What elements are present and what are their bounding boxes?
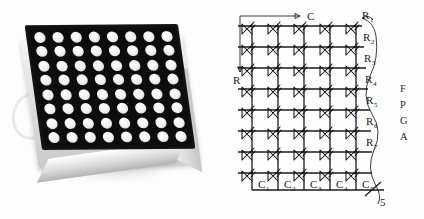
led-dot: [90, 46, 103, 57]
led-dot: [57, 75, 70, 86]
led-dot: [118, 117, 131, 128]
led-dot: [98, 103, 111, 114]
row-label-base: R: [366, 94, 374, 106]
led-symbol: [320, 22, 333, 34]
led-dot: [112, 74, 125, 85]
led-symbol: [294, 148, 307, 160]
led-symbol-grid: [242, 22, 359, 181]
led-symbol: [242, 148, 255, 160]
led-dot: [37, 61, 50, 72]
led-matrix-photo: [0, 0, 212, 219]
led-symbol: [346, 148, 359, 160]
led-dot: [73, 60, 86, 71]
led-dot: [77, 89, 90, 100]
led-dot: [100, 117, 113, 128]
led-dot: [128, 60, 141, 71]
row-label-sub: 7: [374, 143, 378, 151]
led-dot: [88, 31, 101, 42]
led-symbol: [242, 169, 255, 181]
led-symbol: [268, 169, 281, 181]
led-symbol: [268, 64, 281, 76]
led-symbol: [346, 64, 359, 76]
col-label-base: C: [362, 178, 369, 190]
col-label-sub: 5: [370, 185, 374, 193]
col-label-base: C: [284, 178, 291, 190]
led-symbol: [294, 127, 307, 139]
column-arrow-label: C: [307, 10, 314, 22]
led-symbol: [294, 43, 307, 55]
led-dot: [106, 31, 119, 42]
led-dot: [35, 46, 48, 57]
row-label-base: R: [366, 136, 374, 148]
led-dot: [172, 117, 185, 128]
figure-root: C R R1 R2 R3 R4 R5 R6 R7 C1 C2 C3 C4 C5 …: [0, 0, 424, 219]
led-symbol: [320, 85, 333, 97]
led-dot: [33, 32, 46, 43]
led-dot-grid: [25, 24, 196, 150]
led-dot: [45, 118, 58, 129]
led-symbol: [268, 106, 281, 118]
led-dot: [116, 103, 129, 114]
row-label: R5: [366, 94, 378, 109]
led-symbol: [346, 106, 359, 118]
led-dot: [170, 102, 183, 113]
col-label-sub: 3: [318, 185, 322, 193]
led-symbol: [294, 169, 307, 181]
led-dot: [160, 31, 173, 42]
row-label: R2: [363, 31, 375, 46]
led-dot: [79, 103, 92, 114]
led-dot: [61, 103, 74, 114]
led-dot: [39, 75, 52, 86]
fpga-letter: A: [400, 131, 408, 142]
led-dot: [130, 74, 143, 85]
led-symbol: [294, 22, 307, 34]
led-dot: [59, 89, 72, 100]
row-label-base: R: [362, 9, 370, 21]
led-dot: [102, 132, 115, 143]
col-label-base: C: [310, 178, 317, 190]
led-symbol: [294, 85, 307, 97]
led-dot: [92, 60, 105, 71]
led-symbol: [294, 64, 307, 76]
col-label-sub: 4: [344, 185, 348, 193]
led-dot: [144, 45, 157, 56]
col-label-sub: 1: [266, 185, 270, 193]
led-dot: [120, 132, 133, 143]
led-dot: [114, 89, 127, 100]
row-label: R7: [366, 136, 378, 151]
row-label-base: R: [363, 31, 371, 43]
row-label-base: R: [364, 52, 372, 64]
module-display-face: [25, 24, 196, 150]
led-symbol: [242, 43, 255, 55]
led-dot: [164, 59, 177, 70]
led-dot: [71, 46, 84, 57]
row-label-sub: 3: [372, 59, 376, 67]
led-dot: [75, 75, 88, 86]
led-matrix-schematic: C R R1 R2 R3 R4 R5 R6 R7 C1 C2 C3 C4 C5 …: [212, 0, 424, 219]
led-dot: [96, 89, 109, 100]
led-dot: [47, 132, 60, 143]
row-label: R6: [366, 115, 378, 130]
row-arrow-label: R: [233, 74, 241, 86]
led-dot: [136, 117, 149, 128]
led-dot: [168, 88, 181, 99]
row-label-sub: 2: [371, 38, 375, 46]
led-dot: [84, 132, 97, 143]
led-dot: [108, 46, 121, 57]
led-symbol: [268, 127, 281, 139]
led-symbol: [294, 106, 307, 118]
led-dot: [94, 74, 107, 85]
row-label-sub: 1: [370, 16, 374, 24]
led-symbol: [320, 169, 333, 181]
led-symbol: [242, 22, 255, 34]
led-dot: [148, 74, 161, 85]
led-dot: [138, 132, 151, 143]
row-label-sub: 5: [374, 101, 378, 109]
bus-width-label: 5: [380, 196, 386, 208]
col-label-base: C: [258, 178, 265, 190]
led-symbol: [320, 64, 333, 76]
row-label: R1: [362, 9, 374, 24]
led-dot: [152, 103, 165, 114]
row-label-base: R: [366, 115, 374, 127]
led-dot: [126, 45, 139, 56]
